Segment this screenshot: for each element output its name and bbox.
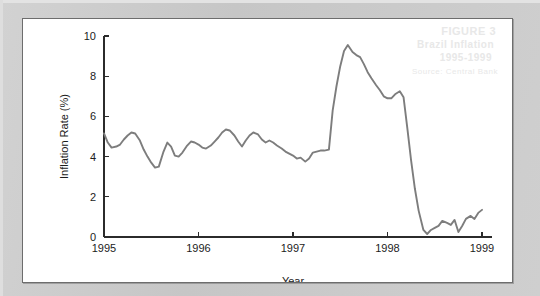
figure-card: FIGURE 3 Brazil Inflation 1995-1999 Sour…: [22, 18, 513, 283]
x-axis-title: Year: [282, 275, 305, 283]
y-tick-label: 6: [90, 110, 96, 122]
x-tick-label: 1995: [92, 242, 116, 254]
x-tick-label: 1999: [470, 242, 494, 254]
y-tick-label: 8: [90, 70, 96, 82]
inflation-rate-line-chart: 0246810 19951996199719981999 Inflation R…: [23, 19, 513, 283]
y-tick-label: 4: [90, 151, 96, 163]
x-tick-label: 1998: [375, 242, 399, 254]
page-edge-highlight-left: [0, 0, 3, 296]
x-tick-label: 1996: [186, 242, 210, 254]
y-axis-title: Inflation Rate (%): [58, 94, 70, 179]
page-background: FIGURE 3 Brazil Inflation 1995-1999 Sour…: [0, 0, 540, 296]
series-line-inflation-rate: [104, 45, 482, 234]
chart-series-group: [104, 45, 482, 234]
page-edge-highlight-top: [0, 0, 540, 3]
y-tick-label: 2: [90, 191, 96, 203]
x-tick-label: 1997: [281, 242, 305, 254]
x-axis: 19951996199719981999: [92, 232, 494, 254]
y-tick-label: 10: [84, 30, 96, 42]
